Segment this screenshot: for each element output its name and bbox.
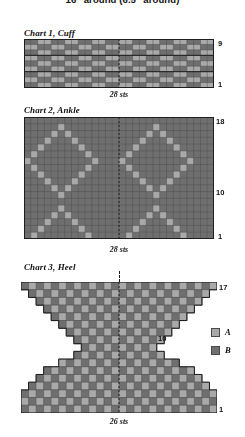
chart1-sts-label: 28 sts: [24, 90, 214, 99]
chart3-grid[interactable]: [21, 282, 217, 413]
chart3-center-guide: [119, 271, 120, 282]
chart1-rownum-top: 9: [218, 40, 222, 48]
legend-label-b: B: [225, 346, 231, 355]
chart2-rownum-top: 18: [216, 118, 224, 126]
chart1-rownum-bottom: 1: [218, 81, 222, 89]
legend-item-a: A: [211, 327, 231, 338]
chart3-rownum-mid: 10: [158, 335, 166, 343]
chart2-sts-label: 28 sts: [24, 245, 214, 254]
chart2-title: Chart 2, Ankle: [24, 105, 80, 115]
chart2-grid[interactable]: [24, 117, 214, 239]
chart2-rownum-mid: 10: [216, 189, 224, 197]
chart-sheet: 16" around (6.5" around) Chart 1, Cuff 9…: [0, 0, 245, 437]
chart3-sts-label: 26 sts: [21, 417, 217, 426]
legend-label-a: A: [225, 328, 231, 337]
page-title: 16" around (6.5" around): [0, 0, 245, 5]
legend-item-b: B: [211, 345, 231, 356]
legend-swatch-a-icon: [211, 328, 220, 337]
chart3-rownum-top: 17: [219, 284, 227, 292]
chart3-title: Chart 3, Heel: [24, 262, 76, 272]
chart1-grid[interactable]: [24, 39, 214, 88]
legend: A B: [211, 327, 231, 363]
chart3-rownum-bottom: 1: [219, 406, 223, 414]
chart2-rownum-bottom: 1: [218, 233, 222, 241]
chart1-title: Chart 1, Cuff: [24, 28, 75, 38]
legend-swatch-b-icon: [211, 346, 220, 355]
